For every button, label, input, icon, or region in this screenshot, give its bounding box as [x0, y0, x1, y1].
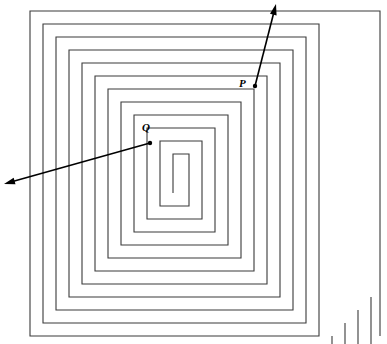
arrow-from-q-head [4, 178, 16, 185]
square-spiral-path [30, 11, 380, 336]
spiral-figure: P Q [0, 0, 387, 344]
arrow-from-p-line [255, 12, 274, 86]
arrow-from-p-head [270, 4, 277, 15]
spiral-canvas [0, 0, 387, 344]
point-p-dot [253, 84, 257, 88]
arrow-from-q-group [4, 141, 152, 184]
point-label-p: P [239, 78, 246, 89]
arrow-from-q-line [12, 143, 150, 182]
point-q-dot [148, 141, 152, 145]
point-label-q: Q [142, 122, 150, 133]
